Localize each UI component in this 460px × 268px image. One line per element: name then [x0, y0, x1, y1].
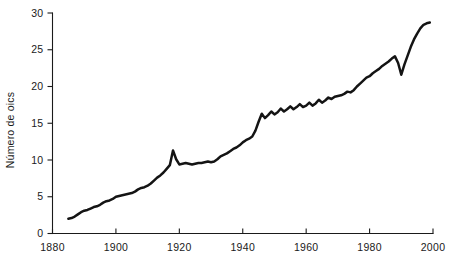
x-tick-label: 1960: [294, 241, 319, 253]
x-tick-label: 1880: [40, 241, 65, 253]
y-tick-label: 0: [37, 227, 43, 239]
y-axis-title-group: Número de oics: [4, 92, 16, 168]
y-tick-label: 5: [37, 190, 43, 202]
x-tick-label: 1980: [357, 241, 382, 253]
x-axis: 1880190019201940196019802000: [40, 229, 445, 253]
y-axis-title: Número de oics: [4, 92, 16, 168]
y-tick-label: 10: [31, 154, 43, 166]
x-tick-group: 1880190019201940196019802000: [40, 229, 445, 253]
y-axis: 051015202530: [31, 7, 52, 240]
x-tick-label: 1940: [230, 241, 255, 253]
y-tick-label: 30: [31, 7, 43, 19]
x-tick-label: 1920: [167, 241, 192, 253]
plot-area: [68, 23, 429, 219]
y-tick-label: 20: [31, 80, 43, 92]
y-tick-label: 25: [31, 43, 43, 55]
x-tick-label: 2000: [421, 241, 446, 253]
x-tick-label: 1900: [104, 241, 129, 253]
y-tick-group: 051015202530: [31, 7, 52, 240]
chart-container: 051015202530 188019001920194019601980200…: [0, 0, 460, 268]
y-tick-label: 15: [31, 117, 43, 129]
data-series-line: [68, 23, 429, 219]
line-chart: 051015202530 188019001920194019601980200…: [0, 0, 460, 268]
